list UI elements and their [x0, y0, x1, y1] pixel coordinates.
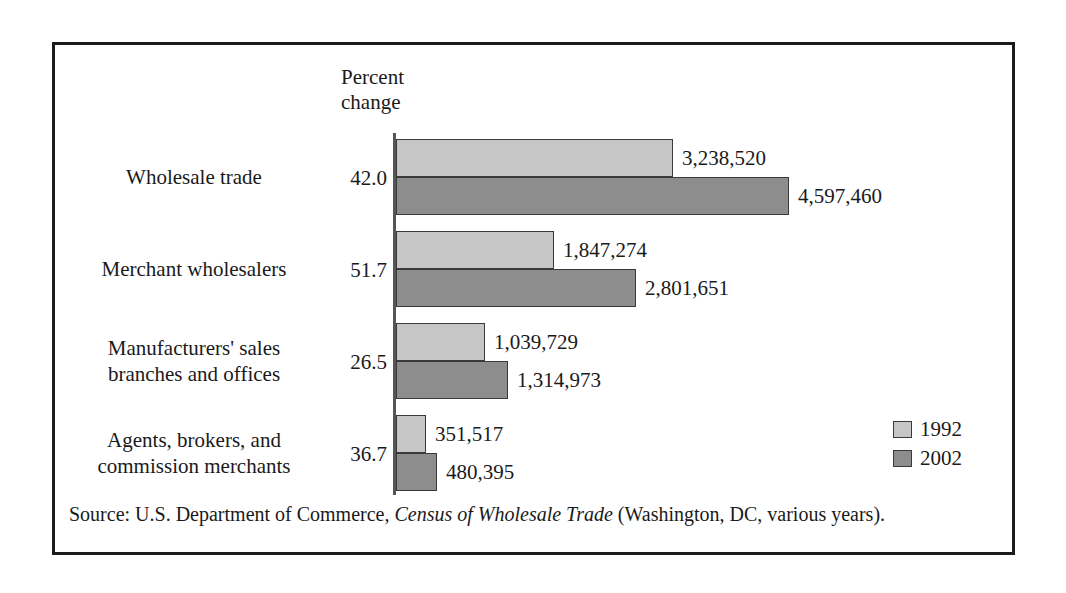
- bar-2002: [396, 453, 437, 491]
- source-suffix: (Washington, DC, various years).: [613, 503, 885, 525]
- percent-change-value: 36.7: [327, 442, 387, 467]
- legend-item-1992: 1992: [893, 417, 962, 442]
- legend-label-2002: 2002: [920, 446, 962, 471]
- category-label: Manufacturers' sales branches and office…: [65, 336, 323, 387]
- source-publication-title: Census of Wholesale Trade: [394, 503, 612, 525]
- source-note: Source: U.S. Department of Commerce, Cen…: [69, 503, 998, 526]
- bar-row-2002: 4,597,460: [396, 177, 882, 215]
- percent-change-header: Percent change: [341, 65, 404, 115]
- legend: 1992 2002: [893, 417, 962, 475]
- category-label: Merchant wholesalers: [65, 257, 323, 283]
- bar-value-label-1992: 351,517: [435, 422, 503, 447]
- percent-change-value: 26.5: [327, 350, 387, 375]
- bar-row-2002: 480,395: [396, 453, 514, 491]
- figure-frame: Percent change Wholesale trade 42.0 3,23…: [52, 42, 1015, 555]
- bar-2002: [396, 361, 508, 399]
- bar-value-label-1992: 1,847,274: [563, 238, 647, 263]
- bar-group: Wholesale trade 42.0 3,238,520 4,597,460: [55, 137, 1012, 219]
- bar-2002: [396, 269, 636, 307]
- bar-group: Agents, brokers, and commission merchant…: [55, 413, 1012, 495]
- bar-value-label-2002: 2,801,651: [645, 276, 729, 301]
- legend-swatch-1992: [893, 421, 912, 438]
- percent-change-value: 42.0: [327, 166, 387, 191]
- percent-change-value: 51.7: [327, 258, 387, 283]
- bar-row-1992: 1,039,729: [396, 323, 578, 361]
- bar-pair: 1,039,729 1,314,973: [396, 321, 1012, 403]
- bar-chart: Percent change Wholesale trade 42.0 3,23…: [55, 45, 1012, 475]
- bar-pair: 3,238,520 4,597,460: [396, 137, 1012, 219]
- category-label: Agents, brokers, and commission merchant…: [65, 428, 323, 479]
- bar-row-1992: 3,238,520: [396, 139, 766, 177]
- bar-value-label-1992: 1,039,729: [494, 330, 578, 355]
- bar-1992: [396, 231, 554, 269]
- bar-row-1992: 1,847,274: [396, 231, 647, 269]
- category-label: Wholesale trade: [65, 165, 323, 191]
- bar-1992: [396, 139, 673, 177]
- bar-group: Manufacturers' sales branches and office…: [55, 321, 1012, 403]
- source-prefix: Source: U.S. Department of Commerce,: [69, 503, 394, 525]
- bar-value-label-2002: 4,597,460: [798, 184, 882, 209]
- legend-label-1992: 1992: [920, 417, 962, 442]
- bar-pair: 1,847,274 2,801,651: [396, 229, 1012, 311]
- bar-1992: [396, 415, 426, 453]
- legend-item-2002: 2002: [893, 446, 962, 471]
- bar-row-1992: 351,517: [396, 415, 503, 453]
- legend-swatch-2002: [893, 450, 912, 467]
- bar-row-2002: 1,314,973: [396, 361, 601, 399]
- bar-value-label-2002: 1,314,973: [517, 368, 601, 393]
- bar-2002: [396, 177, 789, 215]
- bar-value-label-1992: 3,238,520: [682, 146, 766, 171]
- bar-1992: [396, 323, 485, 361]
- bar-group: Merchant wholesalers 51.7 1,847,274 2,80…: [55, 229, 1012, 311]
- bar-value-label-2002: 480,395: [446, 460, 514, 485]
- bar-row-2002: 2,801,651: [396, 269, 729, 307]
